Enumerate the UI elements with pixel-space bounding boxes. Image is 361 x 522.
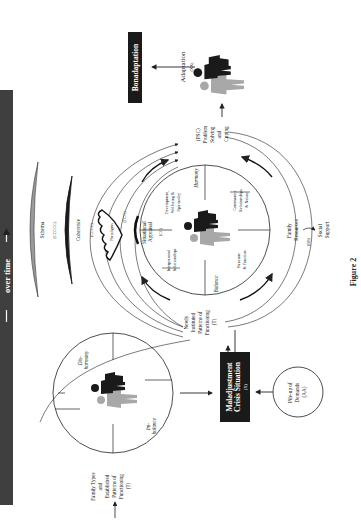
crisis-line: Crisis Situation: [233, 361, 242, 412]
pileup-line: (AA): [301, 386, 308, 397]
family-figure-icon: [184, 210, 230, 246]
structure-label: Structure & Function: [236, 250, 247, 270]
paradigms-cloud: Paradigms (CCC): [98, 210, 127, 260]
pileup-line: Demands: [294, 383, 300, 403]
coherence-label: Coherence: [75, 218, 81, 241]
label-line: Patterns of: [111, 475, 117, 498]
svg-text:Im- balance: Im- balance: [145, 417, 157, 434]
family-resources-label: Family Resources: [286, 219, 299, 240]
resources-code: (BB): [306, 237, 311, 246]
situational-label: Appraisal: [147, 221, 153, 242]
schema-code: (CCCCC): [52, 221, 57, 238]
community-label: Community Relationships & Nature: [232, 188, 249, 212]
social-support-label: Social Support: [317, 221, 330, 238]
label-line: Established: [104, 474, 110, 498]
interpersonal-label: Interpersonal Relationships: [166, 248, 177, 271]
maladjustment-crisis-box: Maladjustment Crisis Situation (X): [220, 352, 250, 422]
coherence-arc: Coherence (CCCC): [65, 176, 94, 284]
disharmony-label: harmony: [83, 350, 89, 369]
coherence-code: (CCCC): [89, 222, 94, 237]
bonadaptation-label: Bonadaptation: [131, 43, 140, 91]
diagram-stage: over time Family Types and Established P…: [0, 0, 361, 522]
paradigms-code: (CCC): [122, 211, 127, 223]
pileup-line: Pile-up of: [287, 382, 293, 403]
paradigms-label: Paradigms: [109, 223, 114, 241]
adapted-family-icon: [193, 55, 244, 95]
label-line: Functioning: [118, 474, 124, 499]
imbalance-label: balance: [151, 417, 157, 434]
family-figure-icon: [91, 372, 137, 408]
psc-label: (PSC) Problem Solving and Coping: [195, 125, 229, 144]
resilience-circle: Interpersonal Relationships Development,…: [140, 165, 270, 295]
harmony-label: Harmony: [193, 168, 199, 189]
development-label: Development, Wellbeing & Spirituality: [164, 190, 181, 215]
crisis-code: (X): [243, 383, 248, 390]
label-line: (T): [125, 482, 132, 489]
figure-caption: Figure 2: [349, 258, 358, 287]
initial-input: Family Types and Established Patterns of…: [90, 471, 132, 518]
svg-text:Pile-up of Demands: Pile-up of Demands (AA): [287, 381, 308, 403]
label-line: and: [97, 483, 103, 491]
label-line: Family Types: [90, 473, 96, 501]
resources-group: Family Resources (BB) Social Support: [286, 219, 330, 246]
banner-label: over time: [2, 259, 12, 293]
initial-family-circle: Dis- harmony Im- balance: [53, 333, 173, 453]
pileup-demands-circle: Pile-up of Demands (AA): [256, 367, 323, 417]
schema-arc: Schema (CCCCC): [30, 162, 57, 297]
situational-code: (CC): [158, 227, 163, 236]
schema-label: Schema: [39, 221, 45, 238]
balance-label: Balance: [213, 275, 219, 293]
over-time-banner: over time: [0, 90, 13, 505]
bonadaptation-box: Bonadaptation: [128, 32, 142, 103]
svg-text:Dis- harmony: Dis- harmony: [77, 350, 89, 369]
svg-text:Family Types and E: Family Types and Established Patterns of…: [90, 471, 132, 501]
svg-text:Situational Appraisal: Situational Appraisal: [141, 220, 153, 244]
newly-instituted-label: Newly Instituted Patterns of Functioning…: [183, 309, 218, 335]
